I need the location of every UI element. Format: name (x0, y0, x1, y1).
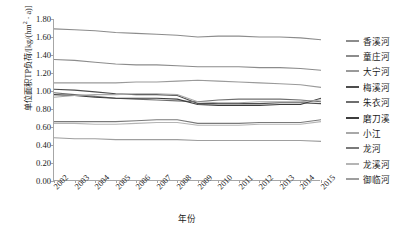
x-axis-tick-label: 2013 (278, 173, 296, 191)
legend-item-label: 磨刀溪 (363, 112, 390, 124)
legend-item-label: 龙河 (363, 142, 381, 154)
legend-line-swatch (346, 178, 359, 180)
x-axis-tick-label: 2010 (216, 173, 234, 191)
legend-item-label: 龙溪河 (363, 158, 390, 170)
x-axis-tick-label: 2011 (237, 173, 255, 191)
legend-line-swatch (346, 117, 359, 119)
x-axis-tick-label: 2006 (134, 173, 152, 191)
legend-line-swatch (346, 70, 359, 72)
legend-item[interactable]: 磨刀溪 (346, 110, 412, 125)
legend-item[interactable]: 御临河 (346, 172, 412, 187)
x-axis-tick-label: 2007 (155, 173, 173, 191)
legend-item[interactable]: 童庄河 (346, 48, 412, 63)
legend-line-swatch (346, 86, 359, 88)
legend-line-swatch (346, 101, 359, 103)
legend-item[interactable]: 小江 (346, 125, 412, 140)
legend-item-label: 梅溪河 (363, 81, 390, 93)
x-axis-tick-label: 2009 (196, 173, 214, 191)
legend-item-label: 御临河 (363, 173, 390, 185)
x-axis-tick-label: 2014 (298, 173, 316, 191)
legend: 香溪河童庄河大宁河梅溪河朱衣河磨刀溪小江龙河龙溪河御临河 (346, 33, 412, 187)
legend-item[interactable]: 龙溪河 (346, 156, 412, 171)
legend-item-label: 香溪河 (363, 35, 390, 47)
legend-item-label: 小江 (363, 127, 381, 139)
legend-item[interactable]: 龙河 (346, 141, 412, 156)
x-axis-tick-label: 2015 (319, 173, 337, 191)
x-axis-tick-label: 2003 (73, 173, 91, 191)
legend-item[interactable]: 梅溪河 (346, 79, 412, 94)
x-axis-title: 年份 (53, 212, 320, 224)
legend-item[interactable]: 朱衣河 (346, 95, 412, 110)
x-axis-tick-label: 2012 (257, 173, 275, 191)
legend-line-swatch (346, 163, 359, 165)
x-axis-tick-label: 2008 (175, 173, 193, 191)
legend-item[interactable]: 大宁河 (346, 64, 412, 79)
x-axis-tick-label: 2005 (114, 173, 132, 191)
chart-container: 单位面积TP负荷/[kg/(hm2 · a)] 0.000.200.400.60… (0, 0, 414, 233)
x-axis-tick-label: 2004 (93, 173, 111, 191)
x-axis-tick-label: 2002 (52, 173, 70, 191)
legend-line-swatch (346, 55, 359, 57)
legend-line-swatch (346, 132, 359, 134)
legend-item-label: 童庄河 (363, 50, 390, 62)
legend-line-swatch (346, 147, 359, 149)
legend-line-swatch (346, 40, 359, 42)
legend-item-label: 大宁河 (363, 65, 390, 77)
legend-item-label: 朱衣河 (363, 96, 390, 108)
legend-item[interactable]: 香溪河 (346, 33, 412, 48)
